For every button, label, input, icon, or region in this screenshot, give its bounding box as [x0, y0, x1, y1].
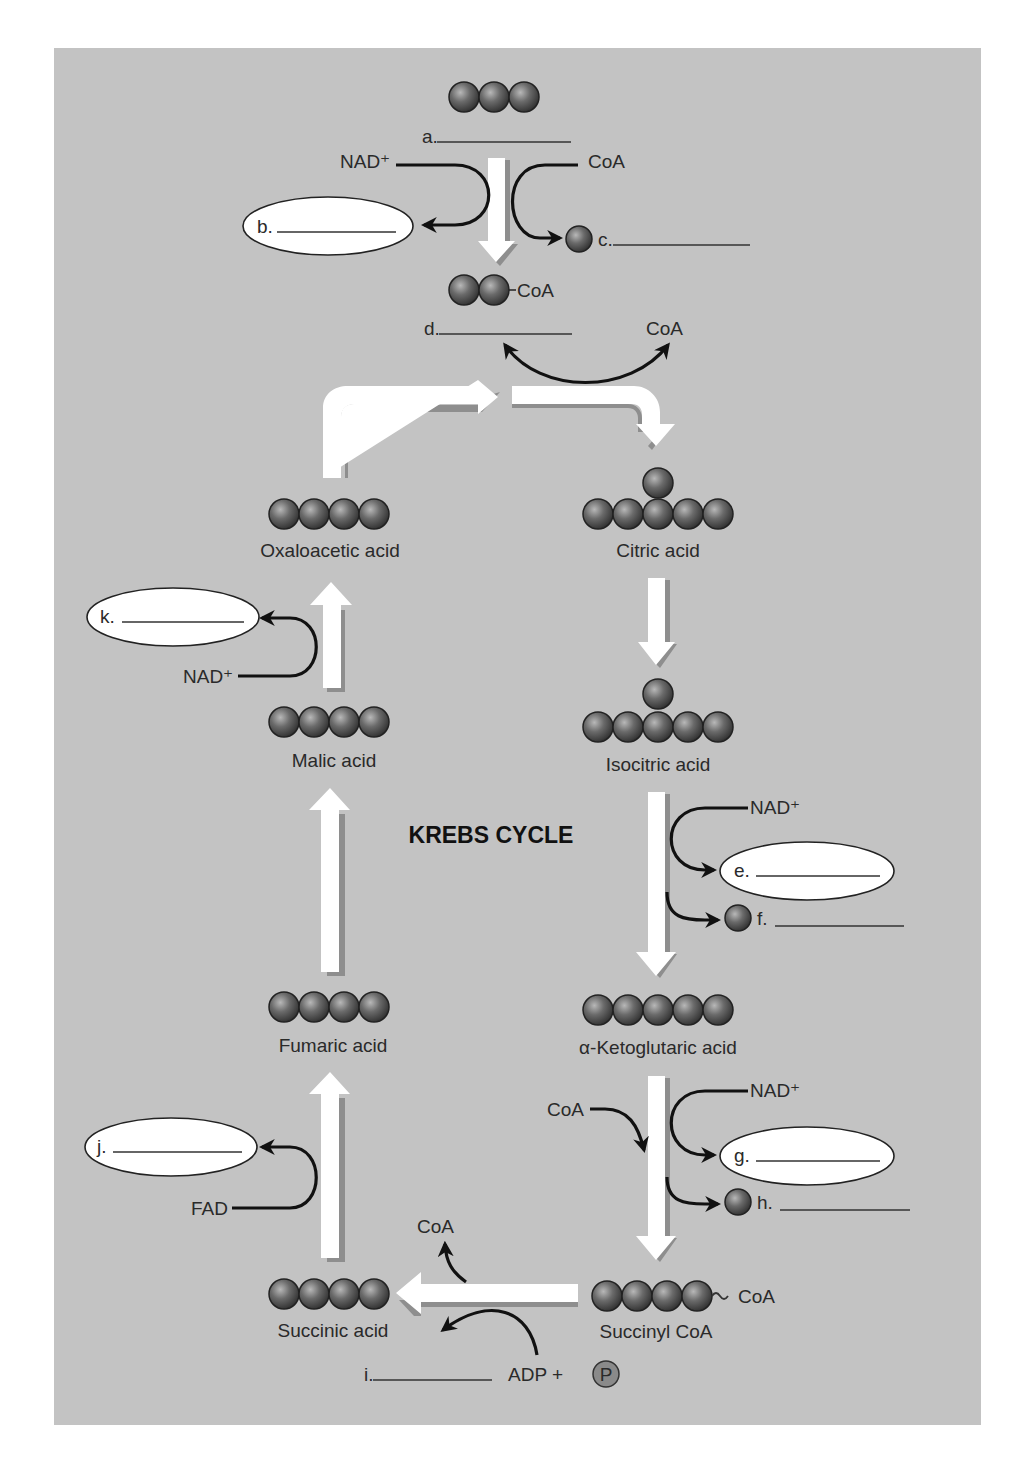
diagram-canvas: a. NAD⁺ CoA b. c. CoA: [0, 0, 1027, 1478]
coa-release-arrow: [505, 345, 668, 383]
nad-plus-label-top: NAD⁺: [340, 151, 390, 172]
succinyl-coa-molecule: CoA: [592, 1281, 775, 1311]
ketoglutaric-acid-molecule: [583, 995, 733, 1025]
pyruvate-molecule: [449, 82, 539, 112]
coa-to-c-arrow: [513, 165, 579, 238]
blank-d-label: d.: [424, 318, 440, 339]
blank-a-label: a.: [422, 126, 438, 147]
blank-h-label: h.: [757, 1192, 773, 1213]
blank-i[interactable]: i.: [364, 1364, 492, 1385]
blank-e-oval[interactable]: e.: [720, 842, 894, 900]
fad-label: FAD: [191, 1198, 228, 1219]
ketoglutaric-acid-label: α-Ketoglutaric acid: [579, 1037, 737, 1058]
co2-to-f-arrow: [667, 892, 718, 920]
blank-h[interactable]: h.: [757, 1192, 910, 1213]
citric-acid-label: Citric acid: [616, 540, 699, 561]
blank-f-label: f.: [757, 908, 768, 929]
blank-b-label: b.: [257, 216, 273, 237]
coa-release-succinyl-arrow: [445, 1244, 466, 1282]
blank-g-label: g.: [734, 1145, 750, 1166]
malic-acid-molecule: [269, 707, 389, 737]
blank-f[interactable]: f.: [757, 908, 904, 929]
arrow-citric-to-isocitric: [638, 578, 677, 668]
krebs-cycle-diagram: a. NAD⁺ CoA b. c. CoA: [0, 0, 1027, 1478]
arrow-ketoglutaric-to-succinyl-coa: [636, 1076, 677, 1262]
fumaric-acid-molecule: [269, 992, 389, 1022]
blank-a[interactable]: a.: [422, 126, 571, 147]
co2-molecule-h: [725, 1189, 751, 1215]
coa-in-label-g: CoA: [547, 1099, 584, 1120]
nad-plus-label-e: NAD⁺: [750, 797, 800, 818]
arrow-fumaric-to-malic: [309, 788, 350, 976]
blank-d[interactable]: d.: [424, 318, 572, 339]
coa-into-ketoglutaric-step-arrow: [590, 1109, 644, 1150]
isocitric-acid-molecule: [583, 679, 733, 742]
succinyl-coa-attached-label: CoA: [738, 1286, 775, 1307]
isocitric-acid-label: Isocitric acid: [606, 754, 711, 775]
arrow-isocitric-to-ketoglutaric: [636, 792, 677, 978]
succinic-acid-molecule: [269, 1279, 389, 1309]
arrow-oxaloacetic-to-junction: [323, 380, 500, 478]
blank-e-label: e.: [734, 860, 750, 881]
fumaric-acid-label: Fumaric acid: [279, 1035, 388, 1056]
malic-acid-label: Malic acid: [292, 750, 376, 771]
arrow-junction-to-citric: [512, 386, 675, 450]
citric-acid-molecule: [583, 468, 733, 529]
co2-to-h-arrow: [667, 1177, 718, 1204]
blank-i-label: i.: [364, 1364, 374, 1385]
oxaloacetic-acid-molecule: [269, 499, 389, 529]
oxaloacetic-acid-label: Oxaloacetic acid: [260, 540, 399, 561]
blank-k-label: k.: [100, 606, 115, 627]
blank-j-oval[interactable]: j.: [85, 1118, 257, 1176]
blank-c[interactable]: c.: [598, 229, 750, 250]
thioester-bond-icon: [712, 1293, 728, 1299]
adp-to-atp-arrow: [443, 1311, 537, 1355]
coa-out-label-top: CoA: [646, 318, 683, 339]
phosphate-icon: P: [593, 1361, 619, 1387]
acetyl-coa-molecule: CoA: [449, 275, 554, 305]
phosphate-label: P: [600, 1364, 613, 1385]
succinyl-coa-label: Succinyl CoA: [600, 1321, 713, 1342]
blank-k-oval[interactable]: k.: [87, 588, 259, 646]
blank-b-oval[interactable]: b.: [243, 197, 413, 255]
nad-to-b-arrow: [396, 165, 489, 225]
nad-plus-label-g: NAD⁺: [750, 1080, 800, 1101]
co2-molecule-c: [566, 226, 592, 252]
nad-plus-label-k: NAD⁺: [183, 666, 233, 687]
blank-c-label: c.: [598, 229, 613, 250]
succinic-acid-label: Succinic acid: [278, 1320, 389, 1341]
adp-label: ADP +: [508, 1364, 563, 1385]
acetyl-coa-label: CoA: [517, 280, 554, 301]
blank-g-oval[interactable]: g.: [720, 1127, 894, 1185]
coa-out-label-i: CoA: [417, 1216, 454, 1237]
blank-j-label: j.: [96, 1136, 107, 1157]
krebs-cycle-title: KREBS CYCLE: [409, 822, 574, 848]
co2-molecule-f: [725, 905, 751, 931]
coa-in-label-top: CoA: [588, 151, 625, 172]
